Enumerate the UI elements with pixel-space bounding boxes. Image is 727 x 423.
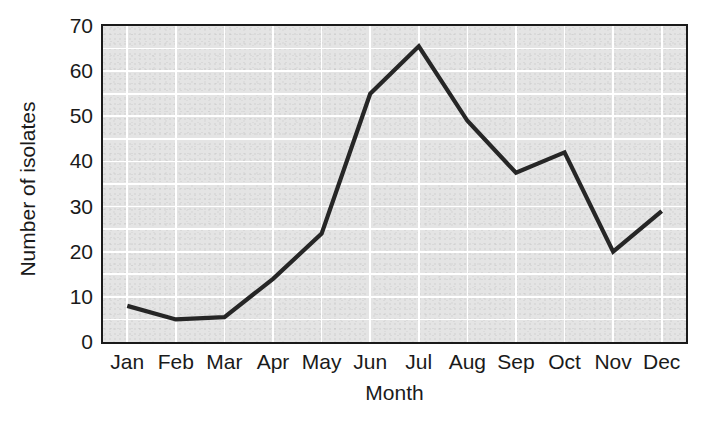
y-axis-title-wrapper: Number of isolates — [15, 29, 41, 349]
line-chart: 010203040506070 JanFebMarAprMayJunJulAug… — [0, 0, 727, 423]
y-axis-title: Number of isolates — [15, 29, 41, 349]
x-axis-tick-labels: JanFebMarAprMayJunJulAugSepOctNovDec — [0, 0, 727, 423]
x-axis-title: Month — [101, 381, 688, 405]
x-tick-label: Dec — [627, 350, 697, 374]
